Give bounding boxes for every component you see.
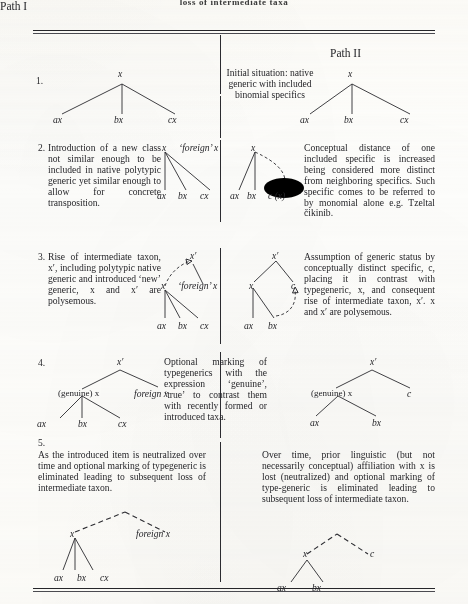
stage-4-right-node-genuine-x: (genuine) x	[311, 388, 352, 398]
top-double-rule	[33, 30, 435, 34]
stage-3-left-node-foreign-x: ‘foreign’ x	[178, 280, 217, 291]
stage-2-right-node-bx: bx	[247, 190, 256, 201]
stage-5-left-node-foreign-x: foreign x	[136, 528, 170, 539]
column-divider-segment-2	[220, 96, 221, 138]
stage-2-right-node-ax: ax	[230, 190, 239, 201]
stage-3-left-node-x-prime: x′	[190, 250, 196, 261]
stage-2-left-node-bx: bx	[178, 190, 187, 201]
stage-3-right-text: Assumption of generic status by conceptu…	[304, 252, 435, 317]
stage-5-right-node-bx: bx	[312, 582, 321, 593]
stage-1-right-node-bx: bx	[344, 114, 353, 125]
stage-3-left-node-bx: bx	[178, 320, 187, 331]
stage-1-center-text: Initial situation: native generic with i…	[222, 68, 318, 101]
stage-5-right-node-ax: ax	[277, 582, 286, 593]
stage-1-right-node-ax: ax	[300, 114, 309, 125]
stage-4-left-node-x-prime: x′	[117, 356, 123, 367]
stage-5-left-node-cx: cx	[100, 572, 109, 583]
stage-3-right-node-ax: ax	[244, 320, 253, 331]
stage-5-number: 5.	[38, 438, 45, 448]
path-one-header: Path I	[0, 0, 27, 12]
stage-3-left-text: Rise of intermediate taxon, x′, includin…	[48, 252, 161, 307]
stage-5-right-tree	[275, 524, 405, 584]
stage-3-right-node-c: c	[291, 280, 295, 291]
stage-1-right-tree	[305, 74, 445, 124]
stage-4-left-node-ax: ax	[37, 418, 46, 429]
stage-3-number: 3.	[38, 252, 45, 262]
scanned-page: loss of intermediate taxa Path I Path II…	[0, 0, 468, 604]
stage-4-number: 4.	[38, 358, 45, 368]
running-head: loss of intermediate taxa	[0, 0, 468, 5]
stage-2-left-node-x: x	[162, 142, 166, 153]
column-divider-segment-6	[220, 442, 221, 582]
stage-4-right-node-x-prime: x′	[370, 356, 376, 367]
stage-4-right-node-bx: bx	[372, 417, 381, 428]
stage-4-left-node-cx: cx	[118, 418, 127, 429]
stage-4-left-node-bx: bx	[78, 418, 87, 429]
stage-5-right-node-x: x	[303, 548, 307, 559]
stage-4-right-node-c: c	[407, 388, 411, 399]
stage-3-right-node-bx: bx	[268, 320, 277, 331]
stage-1-left-node-cx: cx	[168, 114, 177, 125]
column-divider-segment-1	[220, 35, 221, 94]
bottom-double-rule	[33, 588, 435, 592]
stage-2-left-tree	[160, 150, 222, 200]
stage-5-right-node-c: c	[370, 548, 374, 559]
stage-3-right-node-x: x	[249, 280, 253, 291]
stage-3-left-node-ax: ax	[157, 320, 166, 331]
stage-1-left-node-ax: ax	[53, 114, 62, 125]
stage-4-center-text: Optional marking of typegenerics with th…	[164, 357, 267, 422]
stage-1-right-node-cx: cx	[400, 114, 409, 125]
stage-3-left-node-x: x	[161, 280, 165, 291]
stage-1-right-node-x: x	[348, 68, 352, 79]
stage-3-right-node-x-prime: x′	[272, 250, 278, 261]
stage-2-left-text: Introduction of a new class not similar …	[48, 143, 161, 208]
stage-5-left-text: As the introduced item is neutralized ov…	[38, 450, 206, 494]
stage-2-left-node-foreign-x: ‘foreign’ x	[179, 142, 218, 153]
stage-4-right-node-ax: ax	[310, 417, 319, 428]
stage-2-right-node-x: x	[251, 142, 255, 153]
stage-5-right-text: Over time, prior linguistic (but not nec…	[262, 450, 435, 505]
stage-1-left-node-bx: bx	[114, 114, 123, 125]
stage-5-left-tree	[55, 502, 215, 578]
stage-5-left-node-ax: ax	[54, 572, 63, 583]
stage-1-left-node-x: x	[118, 68, 122, 79]
stage-2-right-text: Conceptual distance of one included spec…	[304, 143, 435, 219]
stage-2-left-node-ax: ax	[157, 190, 166, 201]
stage-5-left-node-bx: bx	[77, 572, 86, 583]
stage-2-number: 2.	[38, 143, 45, 153]
stage-2-left-node-cx: cx	[200, 190, 209, 201]
path-two-header: Path II	[330, 47, 361, 59]
stage-3-left-node-cx: cx	[200, 320, 209, 331]
stage-2-right-node-c-x: c (x)	[268, 190, 285, 201]
stage-5-left-node-x: x	[70, 528, 74, 539]
stage-4-left-node-genuine-x: (genuine) x	[58, 388, 99, 398]
stage-4-left-node-foreign-x: foreign x	[134, 388, 168, 399]
